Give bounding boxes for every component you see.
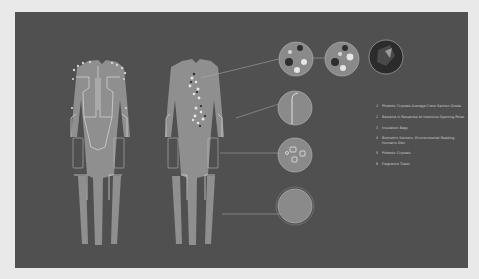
legend-item: 2 Bacteria in Response to Intensive Open… [376,115,466,119]
callout-legend: 1 Phototic Crystals Average Cross Sectio… [376,104,466,173]
back-view-suit [71,60,130,245]
legend-item: 5 Phototic Crystals [376,151,466,155]
detail-circle-2 [325,42,359,76]
detail-circle-photo [369,40,403,74]
legend-item: 1 Phototic Crystals Average Cross Sectio… [376,104,466,108]
detail-circle-1 [279,42,313,76]
detail-circle-3 [278,91,312,125]
front-view-suit [165,59,224,245]
detail-circle-4 [278,138,312,172]
detail-circle-5 [276,187,314,225]
legend-item: 3 Insulation Bags [376,126,466,130]
legend-item: 4 Biometric Sensors, Environmental Readi… [376,136,466,145]
legend-item: 6 Fragrance Tubes [376,162,466,166]
